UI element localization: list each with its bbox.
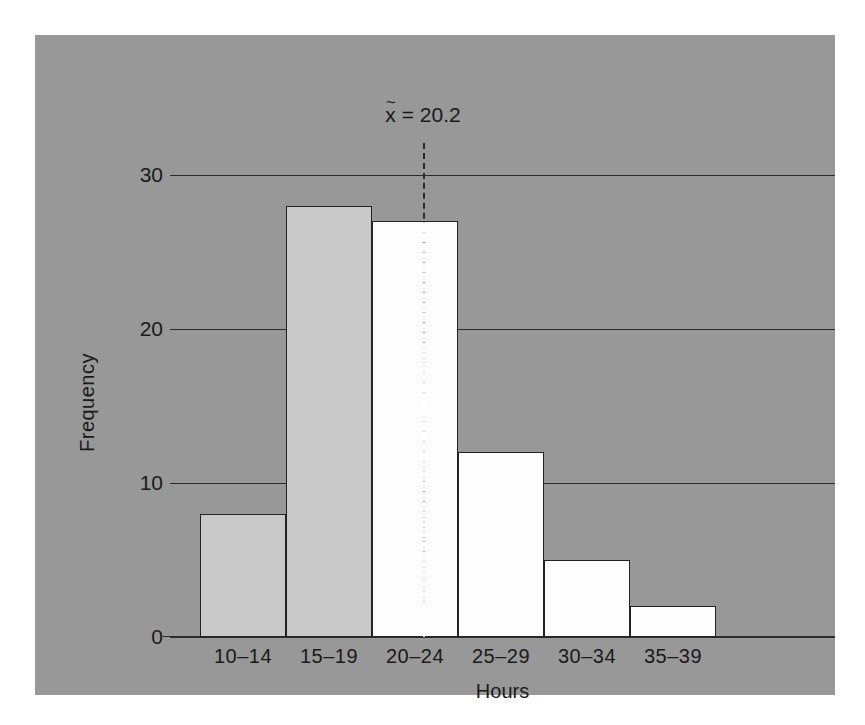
ytick-0-label: 0 [119, 626, 163, 647]
xtick-35-39: 35–39 [630, 645, 716, 668]
ytick-0-dash [163, 636, 173, 637]
chart-panel: 30 20 10 0 Frequency ~x = 20.2 [35, 35, 835, 695]
ytick-0: 0 [105, 626, 163, 648]
xtick-15-19: 15–19 [286, 645, 372, 668]
xtick-20-24: 20–24 [372, 645, 458, 668]
median-symbol: ~x [385, 103, 396, 127]
bar-30-34 [544, 560, 630, 637]
y-axis-title: Frequency [76, 333, 99, 473]
median-value: 20.2 [420, 103, 461, 126]
ytick-30-label: 30 [119, 164, 163, 185]
ytick-10: 10 [105, 472, 163, 494]
gridline-20 [170, 329, 835, 330]
ytick-30: 30 [105, 164, 163, 186]
xtick-10-14: 10–14 [200, 645, 286, 668]
ytick-10-label: 10 [119, 472, 163, 493]
bar-10-14 [200, 514, 286, 637]
median-equals: = [396, 103, 420, 126]
gridline-30 [170, 175, 835, 176]
tilde-glyph: ~ [385, 94, 396, 111]
ytick-20-label: 20 [119, 318, 163, 339]
ytick-20: 20 [105, 318, 163, 340]
median-dashed-line-highlight [423, 223, 425, 637]
bar-15-19 [286, 206, 372, 637]
histogram-figure: 30 20 10 0 Frequency ~x = 20.2 [0, 0, 865, 725]
xtick-25-29: 25–29 [458, 645, 544, 668]
median-annotation: ~x = 20.2 [303, 103, 543, 127]
xtick-30-34: 30–34 [544, 645, 630, 668]
x-axis-title: Hours [170, 680, 835, 703]
bar-20-24 [372, 221, 458, 637]
bar-25-29 [458, 452, 544, 637]
bar-35-39 [630, 606, 716, 637]
